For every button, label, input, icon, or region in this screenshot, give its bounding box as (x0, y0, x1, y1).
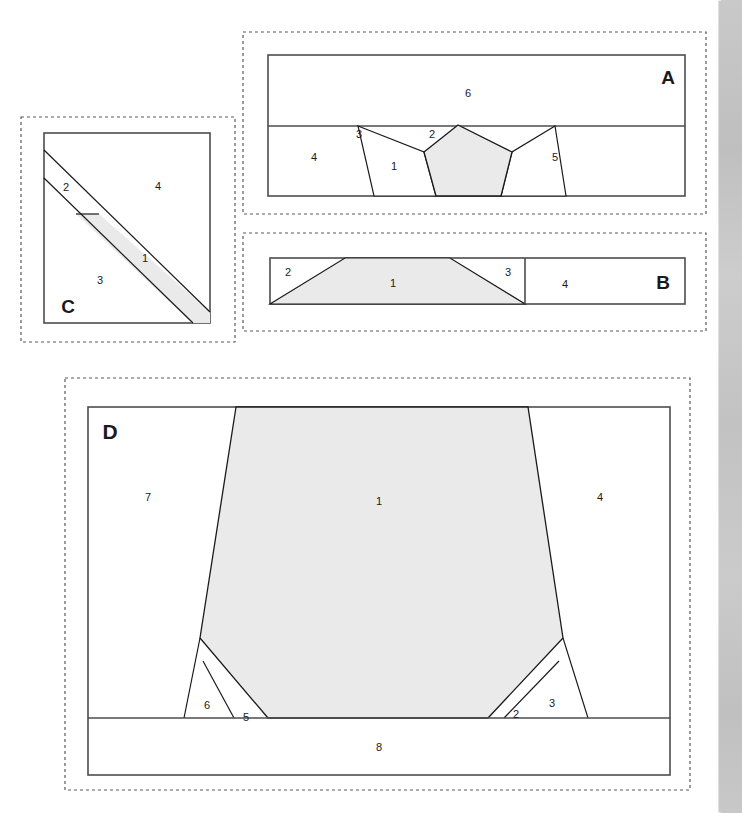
panel-b[interactable]: B 2 1 3 4 (243, 233, 706, 331)
panel-a[interactable]: A 6 3 2 1 4 5 (243, 32, 706, 214)
panel-d-region-label-8: 8 (376, 741, 382, 753)
panel-c[interactable]: C 2 4 1 3 (21, 117, 235, 342)
panel-d-letter: D (102, 420, 117, 443)
panel-a-region-label-3: 3 (356, 128, 362, 140)
panel-b-region-label-1: 1 (390, 277, 396, 289)
panel-d-region-label-5: 5 (243, 711, 249, 723)
panel-a-letter: A (661, 67, 675, 88)
panel-a-region-label-1: 1 (391, 160, 397, 172)
panel-d-region-1-main-polygon (200, 407, 563, 718)
panel-c-region-label-1: 1 (142, 252, 148, 264)
panel-b-letter: B (656, 272, 670, 293)
panel-b-region-label-2: 2 (285, 266, 291, 278)
panel-c-region-label-2: 2 (63, 181, 69, 193)
panel-d-region-label-6: 6 (204, 699, 210, 711)
diagram-stage: A 6 3 2 1 4 5 B 2 1 3 4 C (0, 0, 742, 813)
panel-d[interactable]: D 7 1 4 6 5 2 3 8 (65, 378, 690, 790)
panel-b-region-label-4: 4 (562, 278, 568, 290)
panel-d-region-label-7: 7 (145, 491, 151, 503)
panel-c-region-label-4: 4 (155, 180, 161, 192)
panel-d-region-label-2: 2 (513, 708, 519, 720)
panel-a-region-label-5: 5 (552, 151, 558, 163)
panel-d-region-label-4: 4 (597, 491, 603, 503)
panel-b-region-label-3: 3 (505, 266, 511, 278)
decorative-texture-strip (718, 0, 742, 813)
panel-d-region-label-1: 1 (376, 495, 382, 507)
panels-svg: A 6 3 2 1 4 5 B 2 1 3 4 C (0, 0, 742, 813)
panel-a-region-label-6: 6 (465, 87, 471, 99)
panel-a-region-label-4: 4 (311, 151, 317, 163)
panel-a-region-label-2: 2 (429, 128, 435, 140)
panel-c-letter: C (61, 296, 75, 317)
panel-c-region-label-3: 3 (97, 274, 103, 286)
panel-d-region-label-3: 3 (549, 697, 555, 709)
